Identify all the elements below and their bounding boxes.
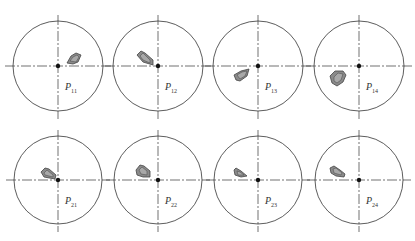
panel-label: P12: [165, 81, 177, 94]
panel-p24: [307, 130, 411, 232]
label-subscript: 11: [71, 88, 77, 94]
label-subscript: 22: [171, 202, 177, 208]
center-point: [357, 178, 361, 182]
label-subscript: 12: [171, 88, 177, 94]
panel-p13: [205, 15, 311, 119]
label-subscript: 13: [271, 88, 277, 94]
label-subscript: 23: [271, 202, 277, 208]
panel-label: P11: [65, 81, 77, 94]
center-point: [156, 178, 160, 182]
center-point: [56, 64, 60, 68]
panel-label: P13: [265, 81, 277, 94]
panel-p12: [105, 15, 211, 119]
panel-label: P23: [265, 195, 277, 208]
panel-p11: [5, 15, 111, 119]
center-point: [56, 178, 60, 182]
center-point: [156, 64, 160, 68]
mechanism-position-diagram: [0, 0, 415, 241]
center-point: [256, 64, 260, 68]
label-subscript: 14: [372, 88, 378, 94]
center-point: [256, 178, 260, 182]
panel-label: P24: [366, 195, 378, 208]
center-point: [357, 64, 361, 68]
panel-label: P14: [366, 81, 378, 94]
panel-p21: [6, 130, 110, 232]
panel-label: P22: [165, 195, 177, 208]
panel-label: P21: [65, 195, 77, 208]
label-subscript: 24: [372, 202, 378, 208]
panel-p14: [306, 15, 412, 119]
label-subscript: 21: [71, 202, 77, 208]
panel-p23: [206, 130, 310, 232]
panel-p22: [106, 130, 210, 232]
